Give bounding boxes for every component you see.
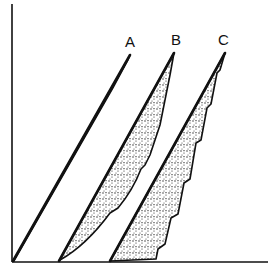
hysteresis-diagram: A B C: [0, 0, 274, 272]
loop-a: A: [13, 33, 135, 261]
label-a: A: [125, 33, 135, 50]
label-c: C: [218, 31, 229, 48]
label-b: B: [171, 31, 181, 48]
